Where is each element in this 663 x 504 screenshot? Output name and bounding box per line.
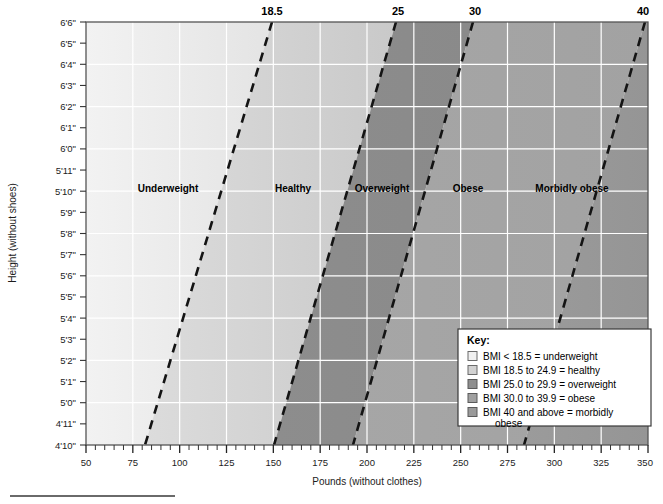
key-entry-overweight: BMI 25.0 to 29.9 = overweight (468, 379, 616, 390)
bmi-top-label-25: 25 (392, 5, 404, 17)
y-tick-label-1: 6'5" (60, 38, 76, 49)
key-label-underweight: BMI < 18.5 = underweight (483, 351, 598, 362)
y-axis-title: Height (without shoes) (7, 183, 18, 283)
y-tick-label-17: 5'1" (60, 376, 76, 387)
key-entry-underweight: BMI < 18.5 = underweight (468, 351, 598, 362)
x-tick-label-5: 175 (312, 457, 328, 468)
y-tick-label-5: 6'1" (60, 122, 76, 133)
y-tick-label-10: 5'8" (60, 228, 76, 239)
key-swatch-overweight (468, 380, 477, 389)
x-tick-label-10: 300 (546, 457, 562, 468)
y-tick-label-13: 5'5" (60, 291, 76, 302)
x-tick-label-2: 100 (172, 457, 188, 468)
y-tick-label-12: 5'6" (60, 270, 76, 281)
x-tick-label-11: 325 (593, 457, 609, 468)
x-tick-label-1: 75 (128, 457, 139, 468)
y-tick-label-11: 5'7" (60, 249, 76, 260)
key-label-healthy: BMI 18.5 to 24.9 = healthy (483, 365, 600, 376)
y-tick-label-2: 6'4" (60, 59, 76, 70)
y-tick-label-0: 6'6" (60, 17, 76, 28)
key-swatch-healthy (468, 366, 477, 375)
y-axis: 6'6" 6'5" 6'4" 6'3" 6'2" 6'1" 6'0" 5'11"… (55, 17, 86, 451)
key-label-morbidly-obese-cont: obese (495, 418, 523, 429)
band-label-overweight: Overweight (355, 183, 410, 194)
y-tick-label-8: 5'10" (55, 186, 76, 197)
bmi-top-label-30: 30 (469, 5, 481, 17)
x-tick-label-12: 350 (637, 457, 653, 468)
band-label-underweight: Underweight (138, 183, 199, 194)
y-tick-label-6: 6'0" (60, 143, 76, 154)
y-tick-label-19: 4'11" (56, 418, 76, 429)
key-label-morbidly-obese: BMI 40 and above = morbidly (483, 407, 613, 418)
x-axis-labels: 50 75 100 125 150 175 200 225 250 275 30… (81, 457, 653, 468)
y-tick-label-15: 5'3" (60, 334, 76, 345)
bmi-chart-svg: 18.5 25 30 40 Underweight Healthy Overwe… (0, 0, 663, 504)
key-label-overweight: BMI 25.0 to 29.9 = overweight (483, 379, 616, 390)
key-entry-obese: BMI 30.0 to 39.9 = obese (468, 393, 595, 404)
x-axis-title: Pounds (without clothes) (312, 476, 422, 487)
bmi-top-label-40: 40 (637, 5, 649, 17)
x-tick-label-8: 250 (453, 457, 469, 468)
band-label-obese: Obese (453, 183, 484, 194)
x-tick-label-3: 125 (219, 457, 235, 468)
y-tick-label-3: 6'3" (60, 80, 76, 91)
bmi-top-label-18-5: 18.5 (261, 5, 282, 17)
key-swatch-morbidly-obese (468, 408, 477, 417)
y-tick-label-9: 5'9" (60, 207, 76, 218)
y-axis-ticks (80, 22, 86, 445)
y-tick-label-7: 5'11" (56, 165, 76, 176)
x-tick-label-7: 225 (406, 457, 422, 468)
key-swatch-obese (468, 394, 477, 403)
y-tick-label-16: 5'2" (60, 355, 76, 366)
band-label-healthy: Healthy (275, 183, 312, 194)
x-tick-label-0: 50 (81, 457, 92, 468)
key-swatch-underweight (468, 352, 477, 361)
key-label-obese: BMI 30.0 to 39.9 = obese (483, 393, 595, 404)
x-tick-label-9: 275 (500, 457, 516, 468)
band-label-morbidly-obese: Morbidly obese (535, 183, 609, 194)
y-tick-label-4: 6'2" (60, 101, 76, 112)
key-title: Key: (467, 334, 490, 346)
key-legend: Key: BMI < 18.5 = underweight BMI 18.5 t… (458, 329, 651, 429)
bmi-chart: 18.5 25 30 40 Underweight Healthy Overwe… (0, 0, 663, 504)
y-tick-label-18: 5'0" (60, 397, 76, 408)
key-entry-healthy: BMI 18.5 to 24.9 = healthy (468, 365, 600, 376)
y-tick-label-14: 5'4" (60, 313, 76, 324)
x-tick-label-4: 150 (265, 457, 281, 468)
x-tick-label-6: 200 (359, 457, 375, 468)
y-tick-label-20: 4'10" (55, 440, 76, 451)
